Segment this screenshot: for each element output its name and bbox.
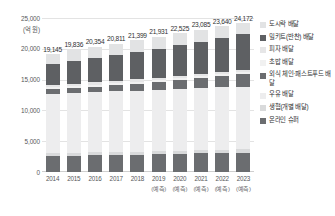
bar-segment: [194, 42, 208, 74]
legend-item[interactable]: 피자 배달: [260, 45, 335, 54]
legend-item[interactable]: 도시락 배달: [260, 20, 335, 29]
x-axis-tick: 2022(예측): [215, 175, 229, 197]
bar-segment: [130, 52, 144, 80]
x-axis-tick: 2023(예측): [236, 175, 250, 197]
legend-item[interactable]: 외식 체인·패스트푸드 배달: [260, 70, 335, 86]
legend-swatch-icon: [260, 105, 266, 111]
stacked-bar: [173, 33, 187, 172]
legend-swatch-icon: [260, 118, 266, 124]
bar-segment: [46, 64, 60, 85]
legend-swatch-icon: [260, 60, 266, 66]
bar-segment: [173, 45, 187, 75]
legend-item-label: 밀키트(반찬) 배달: [269, 33, 335, 41]
bar-segment: [67, 93, 81, 153]
stacked-bar: [67, 50, 81, 172]
bar-segment: [194, 78, 208, 88]
bar-segment: [236, 153, 250, 172]
stacked-bar: [109, 44, 123, 172]
bar-column[interactable]: 20,811: [109, 18, 123, 172]
legend-item-label: 생협(개별 배달): [269, 103, 335, 111]
bar-segment: [67, 50, 81, 61]
bar-segment: [173, 89, 187, 151]
legend-swatch-icon: [260, 22, 266, 28]
bar-column[interactable]: 20,354: [88, 18, 102, 172]
legend-item[interactable]: 밀키트(반찬) 배달: [260, 33, 335, 42]
bar-segment: [88, 155, 102, 172]
bar-segment: [215, 87, 229, 149]
stacked-bar: [130, 40, 144, 172]
bar-segment: [194, 30, 208, 42]
x-axis-tick: 2015: [67, 175, 81, 197]
bar-segment: [88, 58, 102, 83]
x-axis-tick: 2021(예측): [194, 175, 208, 197]
legend-item-label: 피자 배달: [269, 45, 335, 53]
legend-item[interactable]: 초밥 배달: [260, 58, 335, 67]
bar-column[interactable]: 21,399: [130, 18, 144, 172]
bar-segment: [173, 80, 187, 89]
bar-segment: [152, 49, 166, 78]
bar-segment: [173, 154, 187, 172]
legend-item[interactable]: 생협(개별 배달): [260, 103, 335, 112]
bar-segment: [88, 47, 102, 58]
bar-segment: [194, 88, 208, 150]
y-axis-unit-label: (억 원): [0, 25, 40, 34]
bar-column[interactable]: 24,172: [236, 18, 250, 172]
stacked-bar: [215, 26, 229, 172]
bar-segment: [173, 33, 187, 45]
bar-column[interactable]: 19,145: [46, 18, 60, 172]
x-axis-tick: 2019(예측): [152, 175, 166, 197]
bar-segment: [46, 156, 60, 172]
bar-segment: [109, 55, 123, 81]
stacked-bar-chart: 05,00010,00015,00020,00025,000 (억 원) 19,…: [0, 0, 335, 216]
bar-segment: [109, 155, 123, 172]
x-axis: 201420152016201720182019(예측)2020(예측)2021…: [42, 175, 254, 215]
legend-item-label: 도시락 배달: [269, 20, 335, 28]
y-axis-tick-label: 25,000: [2, 15, 40, 22]
bar-segment: [236, 87, 250, 150]
legend-swatch-icon: [260, 93, 266, 99]
x-axis-tick-note: (예측): [228, 184, 258, 193]
legend-item-label: 외식 체인·패스트푸드 배달: [269, 70, 335, 86]
bar-segment: [88, 92, 102, 152]
bar-segment: [67, 61, 81, 84]
y-axis-tick-label: 0: [2, 169, 40, 176]
bar-segment: [215, 153, 229, 172]
legend-swatch-icon: [260, 73, 266, 79]
bar-segment: [67, 156, 81, 172]
bar-column[interactable]: 22,525: [173, 18, 187, 172]
bar-segment: [130, 40, 144, 52]
y-axis-tick-label: 15,000: [2, 76, 40, 83]
stacked-bar: [152, 37, 166, 172]
stacked-bar: [46, 54, 60, 172]
x-axis-tick: 2017: [109, 175, 123, 197]
legend-swatch-icon: [260, 47, 266, 53]
bar-segment: [194, 153, 208, 171]
legend-item[interactable]: 온라인 슈퍼: [260, 116, 335, 125]
bar-segment: [46, 94, 60, 154]
bar-segment: [130, 155, 144, 172]
bar-segment: [215, 76, 229, 87]
legend-item-label: 초밥 배달: [269, 58, 335, 66]
chart-legend: 도시락 배달밀키트(반찬) 배달피자 배달초밥 배달외식 체인·패스트푸드 배달…: [260, 20, 335, 128]
y-axis-tick-label: 20,000: [2, 45, 40, 52]
bar-segment: [130, 84, 144, 91]
stacked-bar: [194, 30, 208, 172]
x-axis-tick-label: 2023: [228, 175, 258, 182]
plot-area: 19,14519,83620,35420,81121,39921,93122,5…: [42, 18, 254, 172]
bar-segment: [236, 23, 250, 34]
bar-column[interactable]: 23,085: [194, 18, 208, 172]
bar-column[interactable]: 19,836: [67, 18, 81, 172]
bar-segment: [215, 26, 229, 38]
bar-segment: [152, 37, 166, 49]
bar-column[interactable]: 23,640: [215, 18, 229, 172]
bar-segment: [152, 82, 166, 90]
x-axis-tick: 2018: [130, 175, 144, 197]
bar-segment: [152, 90, 166, 151]
legend-item[interactable]: 우유 배달: [260, 90, 335, 99]
bar-column[interactable]: 21,931: [152, 18, 166, 172]
x-axis-tick: 2020(예측): [173, 175, 187, 197]
bar-value-label: 24,172: [228, 15, 258, 22]
x-axis-tick: 2016: [88, 175, 102, 197]
bar-segment: [130, 91, 144, 152]
legend-item-label: 온라인 슈퍼: [269, 116, 335, 124]
